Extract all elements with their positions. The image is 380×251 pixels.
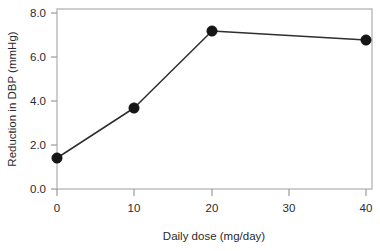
x-tick-label-3: 30: [283, 202, 296, 214]
y-tick-label-2: 4.0: [30, 95, 46, 107]
x-tick-label-2: 20: [206, 202, 219, 214]
y-tick-label-3: 6.0: [30, 51, 46, 63]
y-tick-label-0: 0.0: [30, 183, 46, 195]
x-tick-label-1: 10: [128, 202, 141, 214]
x-tick-label-4: 40: [360, 202, 373, 214]
x-axis-tick-labels: 0 10 20 30 40: [54, 202, 373, 214]
y-tick-label-1: 2.0: [30, 139, 46, 151]
y-tick-label-4: 8.0: [30, 7, 46, 19]
x-axis-title: Daily dose (mg/day): [163, 230, 265, 242]
plot-area-background: [57, 9, 372, 189]
y-axis-tick-labels: 0.0 2.0 4.0 6.0 8.0: [30, 7, 46, 195]
x-axis-tick-marks: [57, 189, 366, 196]
data-point-dose-0: [52, 153, 62, 163]
figure-container: 0.0 2.0 4.0 6.0 8.0 0 10 20 30 40 Daily …: [0, 0, 380, 251]
y-axis-title: Reduction in DBP (mmHg): [6, 31, 18, 166]
data-point-dose-20: [207, 26, 217, 36]
dose-response-line-chart: 0.0 2.0 4.0 6.0 8.0 0 10 20 30 40 Daily …: [0, 0, 380, 251]
data-point-dose-40: [361, 35, 371, 45]
x-tick-label-0: 0: [54, 202, 60, 214]
data-point-dose-10: [129, 103, 139, 113]
